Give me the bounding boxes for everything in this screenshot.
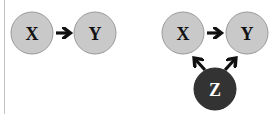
node-y-label: Y: [241, 24, 254, 44]
node-x-label: X: [177, 24, 190, 44]
diagram-direct-cause: X Y: [11, 12, 116, 54]
causal-diagrams: X Y X Y Z: [0, 0, 278, 114]
node-x: X: [162, 12, 204, 54]
edge-z-to-y: [225, 59, 235, 70]
node-y-label: Y: [89, 24, 102, 44]
diagram-confounded: X Y Z: [162, 12, 268, 110]
node-y: Y: [226, 12, 268, 54]
node-x-label: X: [26, 24, 39, 44]
node-z: Z: [194, 68, 236, 110]
node-z-label: Z: [209, 80, 221, 100]
node-y: Y: [74, 12, 116, 54]
edge-z-to-x: [195, 59, 205, 70]
node-x: X: [11, 12, 53, 54]
